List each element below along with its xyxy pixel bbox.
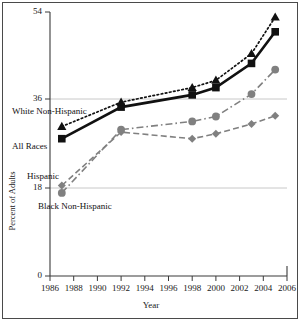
series-line-black-non-hispanic xyxy=(62,116,275,186)
y-tick-label-36: 36 xyxy=(20,93,42,103)
series-label-white-non-hispanic: White Non-Hispanic xyxy=(12,106,87,116)
series-line-hispanic xyxy=(62,70,275,193)
y-tick-label-54: 54 xyxy=(20,6,42,16)
series-label-hispanic: Hispanic xyxy=(27,171,59,181)
x-tick-label-2006: 2006 xyxy=(272,283,302,293)
series-line-white-non-hispanic xyxy=(62,17,275,126)
series-line-all-races xyxy=(62,32,275,139)
markers-hispanic xyxy=(58,66,279,197)
series-label-all-races: All Races xyxy=(12,141,47,151)
x-axis-title: Year xyxy=(0,300,302,310)
chart-figure: 54 36 18 0 1986 1988 1990 1992 1994 1996… xyxy=(0,0,302,321)
y-tick-label-18: 18 xyxy=(20,182,42,192)
markers-white-non-hispanic xyxy=(57,12,280,130)
line-chart-plot xyxy=(0,0,302,321)
y-tick-label-0: 0 xyxy=(20,270,42,280)
series-label-black-non-hispanic: Black Non-Hispanic xyxy=(38,201,112,211)
y-axis-title: Percent of Adults xyxy=(7,155,17,247)
x-tick-marks xyxy=(50,276,287,281)
